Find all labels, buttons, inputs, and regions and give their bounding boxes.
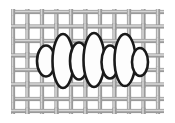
mesh-weave-crossing xyxy=(11,9,15,16)
mesh-weave-crossing xyxy=(25,108,29,115)
mesh-weave-crossing xyxy=(11,67,15,74)
mesh-weave-crossing xyxy=(156,9,160,16)
mesh-weave-crossing xyxy=(112,108,116,115)
mesh-weave-crossing xyxy=(141,81,145,88)
mesh-weave-crossing xyxy=(156,67,160,74)
mesh-weave-crossing xyxy=(156,38,160,45)
mesh-weave-crossing xyxy=(25,23,29,30)
mesh-weave-crossing xyxy=(40,38,44,45)
mesh-weave-crossing xyxy=(83,23,87,30)
mesh-weave-crossing xyxy=(11,38,15,45)
mesh-weave-crossing xyxy=(83,108,87,115)
mesh-weave-crossing xyxy=(112,81,116,88)
mesh-weave-crossing xyxy=(127,9,131,16)
mesh-weave-crossing xyxy=(127,96,131,103)
mesh-filter-illustration: Woven mesh filter with trapped particles xyxy=(0,0,175,123)
mesh-weave-crossing xyxy=(156,96,160,103)
mesh-weave-crossing xyxy=(54,23,58,30)
mesh-strand-horizontal xyxy=(11,97,164,101)
mesh-weave-crossing xyxy=(98,96,102,103)
particle-end-cap-right xyxy=(132,48,148,76)
mesh-weave-crossing xyxy=(40,9,44,16)
mesh-weave-crossing xyxy=(69,9,73,16)
mesh-weave-crossing xyxy=(25,52,29,59)
mesh-strand-horizontal xyxy=(11,10,164,14)
illustration-canvas xyxy=(0,0,175,123)
mesh-weave-crossing xyxy=(141,23,145,30)
mesh-weave-crossing xyxy=(98,9,102,16)
mesh-weave-crossing xyxy=(69,96,73,103)
mesh-weave-crossing xyxy=(112,23,116,30)
mesh-weave-crossing xyxy=(40,96,44,103)
mesh-weave-crossing xyxy=(25,81,29,88)
mesh-weave-crossing xyxy=(141,108,145,115)
mesh-weave-crossing xyxy=(54,108,58,115)
mesh-weave-crossing xyxy=(11,96,15,103)
